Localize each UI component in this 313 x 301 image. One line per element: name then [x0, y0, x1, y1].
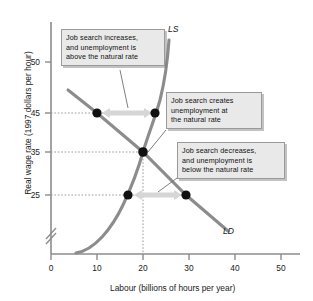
callout-natural-line2: unemployment at [171, 106, 257, 116]
x-axis-title: Labour (billions of hours per year) [110, 283, 235, 293]
callout-natural-line3: the natural rate [171, 115, 257, 125]
x-tick-label-30: 30 [180, 263, 198, 273]
x-tick-label-40: 40 [226, 263, 244, 273]
x-tick-marks [51, 254, 281, 260]
labour-supply-curve [76, 40, 169, 253]
y-tick-label-45: 45 [22, 108, 40, 118]
callout-at-natural-rate: Job search creates unemployment at the n… [166, 92, 262, 129]
callout-below-natural-rate: Job search decreases, and unemployment i… [177, 142, 285, 179]
x-tick-label-50: 50 [272, 263, 290, 273]
marker-ls-at-45 [150, 108, 159, 117]
callout-above-line3: above the natural rate [66, 52, 160, 62]
callout-above-line2: and unemployment is [66, 43, 160, 53]
labour-market-figure: Real wage rate (1997 dollars per hour) L… [0, 0, 313, 301]
x-tick-label-0: 0 [42, 263, 60, 273]
callout-above-line1: Job search increases, [66, 33, 160, 43]
guide-lines [51, 113, 186, 254]
marker-ld-at-45 [92, 108, 101, 117]
marker-ld-at-25 [181, 190, 190, 199]
callout-natural-line1: Job search creates [171, 96, 257, 106]
y-tick-label-25: 25 [22, 190, 40, 200]
demand-curve-label: LD [223, 226, 234, 236]
callout-below-line1: Job search decreases, [182, 146, 280, 156]
marker-equilibrium [138, 147, 148, 157]
supply-curve-label: LS [168, 24, 179, 34]
callout-below-line3: below the natural rate [182, 165, 280, 175]
unemployment-gap-arrow-above [102, 108, 152, 118]
x-tick-label-10: 10 [88, 263, 106, 273]
y-tick-label-50: 50 [22, 57, 40, 67]
callout-below-line2: and unemployment is [182, 156, 280, 166]
y-tick-marks [45, 62, 51, 195]
marker-ls-at-25 [123, 190, 132, 199]
x-tick-label-20: 20 [134, 263, 152, 273]
y-tick-label-35: 35 [22, 147, 40, 157]
callout-above-natural-rate: Job search increases, and unemployment i… [61, 29, 165, 66]
